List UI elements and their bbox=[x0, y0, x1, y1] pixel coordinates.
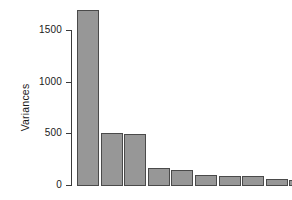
bar bbox=[266, 179, 288, 186]
bar bbox=[219, 176, 241, 186]
bar bbox=[148, 168, 170, 186]
bar bbox=[195, 175, 217, 186]
bar bbox=[77, 10, 99, 186]
bar bbox=[101, 133, 123, 186]
bar bbox=[242, 176, 264, 186]
bar bbox=[171, 170, 193, 186]
bar bbox=[289, 180, 292, 186]
scree-plot-figure: Variances 050010001500 bbox=[0, 0, 292, 200]
bar bbox=[124, 134, 146, 186]
bar-series bbox=[0, 0, 292, 200]
